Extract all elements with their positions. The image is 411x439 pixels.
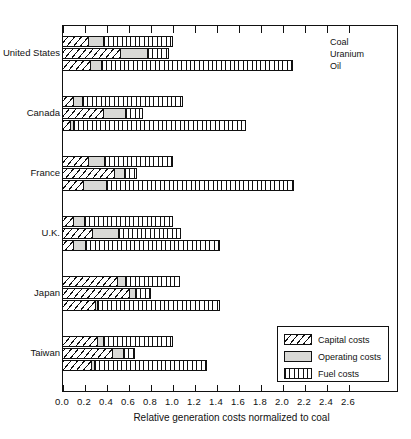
x-tick-bottom <box>283 385 284 392</box>
bar-japan-coal <box>62 276 180 287</box>
bar-segment-capital-costs <box>62 360 92 371</box>
x-tick-bottom <box>217 385 218 392</box>
bar-segment-fuel-costs <box>104 156 173 167</box>
bar-segment-fuel-costs <box>106 180 294 191</box>
x-tick-top <box>217 26 218 33</box>
x-tick-top <box>85 26 86 33</box>
bar-segment-fuel-costs <box>124 168 137 179</box>
bar-segment-capital-costs <box>62 348 113 359</box>
bar-segment-operating-costs <box>88 156 104 167</box>
legend-swatch-operating-costs <box>284 351 312 362</box>
x-tick-bottom <box>195 385 196 392</box>
bar-segment-capital-costs <box>62 168 115 179</box>
bar-france-oil <box>62 180 294 191</box>
x-tick-bottom <box>107 385 108 392</box>
x-tick-label: 2.6 <box>335 396 361 407</box>
bar-united-states-coal <box>62 36 173 47</box>
series-annotation-oil: Oil <box>330 61 341 71</box>
bar-segment-fuel-costs <box>85 240 220 251</box>
bar-u-k-uranium <box>62 228 181 239</box>
x-tick-top <box>195 26 196 33</box>
bar-segment-fuel-costs <box>82 96 183 107</box>
x-tick-bottom <box>129 385 130 392</box>
x-tick-top <box>173 26 174 33</box>
legend-swatch-capital-costs <box>284 334 312 345</box>
bar-segment-fuel-costs <box>84 216 173 227</box>
bar-segment-fuel-costs <box>73 120 246 131</box>
bar-taiwan-uranium <box>62 348 135 359</box>
bar-segment-fuel-costs <box>94 360 207 371</box>
x-tick-top <box>305 26 306 33</box>
x-tick-bottom <box>151 385 152 392</box>
x-tick-bottom <box>85 385 86 392</box>
x-tick-top <box>107 26 108 33</box>
legend-item: Capital costs <box>284 332 388 347</box>
bar-segment-capital-costs <box>62 288 130 299</box>
bar-segment-operating-costs <box>83 180 107 191</box>
x-tick-top <box>327 26 328 33</box>
bar-segment-capital-costs <box>62 228 93 239</box>
category-label-canada: Canada <box>27 107 60 118</box>
category-label-taiwan: Taiwan <box>30 347 60 358</box>
bar-segment-capital-costs <box>62 108 104 119</box>
bar-segment-fuel-costs <box>135 288 151 299</box>
x-axis-title-text: Relative generation costs normalized to … <box>81 412 329 423</box>
bar-segment-fuel-costs <box>97 300 220 311</box>
bar-segment-fuel-costs <box>123 348 135 359</box>
category-label-u-k: U.K. <box>42 227 60 238</box>
legend-item: Operating costs <box>284 349 388 364</box>
bar-segment-operating-costs <box>92 228 119 239</box>
bar-france-uranium <box>62 168 137 179</box>
bar-segment-capital-costs <box>62 60 91 71</box>
category-label-japan: Japan <box>34 287 60 298</box>
bar-united-states-oil <box>62 60 293 71</box>
bar-canada-oil <box>62 120 246 131</box>
bar-segment-operating-costs <box>120 48 147 59</box>
bar-segment-operating-costs <box>103 108 126 119</box>
legend-label-operating-costs: Operating costs <box>318 352 381 362</box>
legend-item: Fuel costs <box>284 366 388 381</box>
bar-u-k-oil <box>62 240 220 251</box>
x-tick-bottom <box>305 385 306 392</box>
bar-segment-capital-costs <box>62 36 89 47</box>
bar-segment-fuel-costs <box>125 108 144 119</box>
bar-u-k-coal <box>62 216 173 227</box>
x-tick-top <box>239 26 240 33</box>
bar-segment-fuel-costs <box>103 36 173 47</box>
x-tick-bottom <box>349 385 350 392</box>
bar-segment-capital-costs <box>62 156 89 167</box>
x-tick-bottom <box>327 385 328 392</box>
bar-taiwan-coal <box>62 336 173 347</box>
x-tick-top <box>283 26 284 33</box>
chart-root: 0.00.20.40.60.81.01.21.41.61.82.02.22.42… <box>0 0 411 439</box>
x-tick-top <box>129 26 130 33</box>
bar-segment-fuel-costs <box>125 276 180 287</box>
x-tick-top <box>261 26 262 33</box>
bar-segment-fuel-costs <box>101 60 293 71</box>
x-tick-bottom <box>173 385 174 392</box>
bar-japan-oil <box>62 300 220 311</box>
bar-japan-uranium <box>62 288 151 299</box>
legend-label-capital-costs: Capital costs <box>318 335 370 345</box>
legend: Capital costs Operating costs Fuel costs <box>277 326 389 382</box>
x-tick-bottom <box>261 385 262 392</box>
x-tick-top <box>151 26 152 33</box>
bar-united-states-uranium <box>62 48 169 59</box>
bar-segment-capital-costs <box>62 276 118 287</box>
legend-label-fuel-costs: Fuel costs <box>318 369 359 379</box>
series-annotation-coal: Coal <box>330 37 349 47</box>
category-label-france: France <box>30 167 60 178</box>
bar-segment-operating-costs <box>88 36 103 47</box>
bar-canada-coal <box>62 96 183 107</box>
bar-segment-fuel-costs <box>103 336 173 347</box>
x-axis-title: Relative generation costs normalized to … <box>0 412 411 423</box>
bar-segment-capital-costs <box>62 336 98 347</box>
bar-segment-fuel-costs <box>118 228 181 239</box>
bar-segment-fuel-costs <box>147 48 169 59</box>
bar-canada-uranium <box>62 108 143 119</box>
bar-segment-capital-costs <box>62 48 121 59</box>
category-label-united-states: United States <box>3 47 60 58</box>
x-tick-bottom <box>239 385 240 392</box>
series-annotation-uranium: Uranium <box>330 49 364 59</box>
x-tick-top <box>63 26 64 33</box>
